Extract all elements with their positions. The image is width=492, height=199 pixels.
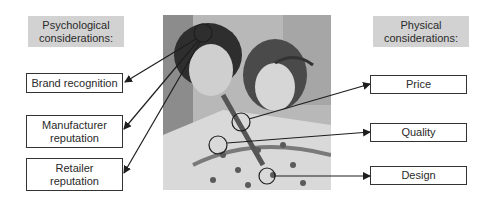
arrow-to-retailer-reputation [124, 42, 200, 173]
price-focus-circle [232, 113, 250, 131]
arrow-to-price [249, 84, 370, 119]
arrow-to-quality [227, 132, 370, 143]
design-focus-circle [259, 168, 275, 184]
arrow-to-manufacturer-reputation [124, 41, 198, 129]
quality-focus-circle [209, 136, 227, 154]
connector-overlay [0, 0, 492, 199]
hair-focus-circle [194, 24, 212, 42]
arrow-to-brand-recognition [125, 39, 196, 82]
